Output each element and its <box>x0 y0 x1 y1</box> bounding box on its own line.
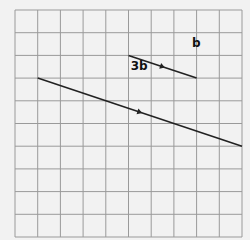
vector-grid-diagram: b3b <box>0 0 250 240</box>
vector-3b: 3b <box>38 59 242 146</box>
vector-label: 3b <box>131 59 148 73</box>
square-grid <box>15 10 242 237</box>
vectors: b3b <box>38 36 242 146</box>
vector-label: b <box>192 36 201 50</box>
